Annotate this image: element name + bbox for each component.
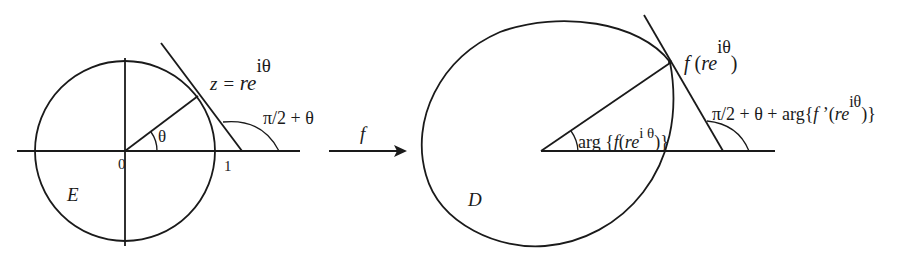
- mapping-arrow: [329, 145, 407, 157]
- image-point-base: re: [701, 52, 717, 74]
- function-f-label: f: [360, 123, 368, 144]
- image-point-exponent: iθ: [717, 37, 731, 57]
- arg-angle-arc: [571, 131, 578, 151]
- unit-label: 1: [224, 158, 232, 174]
- arg-exponent: i θ: [639, 125, 654, 141]
- origin-label: 0: [118, 156, 126, 172]
- tangent-line: [161, 43, 242, 151]
- point-z-label: z = reiθ: [209, 55, 271, 95]
- theta-angle-arc: [151, 132, 157, 151]
- arg-label: arg {f(rei θ)}: [578, 125, 669, 153]
- point-z-prefix: z =: [209, 73, 240, 94]
- image-point-dot: [668, 60, 672, 64]
- image-tangent-line: [644, 15, 723, 151]
- point-z-base: re: [240, 71, 257, 95]
- conformal-map-diagram: 0 1 θ E z = reiθ π/2 + θ f D f (reiθ) ar…: [0, 0, 923, 262]
- rt-exponent: iθ: [849, 93, 861, 110]
- arg-base: re: [625, 132, 639, 152]
- image-point-close: ): [731, 52, 738, 75]
- right-tangent-angle-label: π/2 + θ + arg{f ’(reiθ)}: [712, 93, 876, 125]
- region-e-label: E: [66, 184, 79, 205]
- point-z-exponent: iθ: [256, 55, 270, 76]
- arg-prefix: arg {: [578, 132, 614, 152]
- left-tangent-angle-label: π/2 + θ: [263, 108, 314, 128]
- theta-label: θ: [158, 127, 166, 146]
- rt-prefix: π/2 + θ + arg{: [712, 104, 813, 124]
- image-point-open: (: [690, 52, 702, 75]
- arg-close: )}: [654, 132, 669, 153]
- rt-prime: ’: [818, 104, 829, 124]
- rt-close: )}: [861, 104, 876, 125]
- region-d-label: D: [467, 189, 482, 210]
- image-point-label: f (reiθ): [684, 37, 737, 75]
- rt-base: re: [835, 104, 849, 124]
